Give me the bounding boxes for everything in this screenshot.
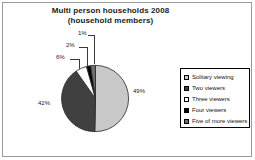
legend-label-three-viewers: Three viewers xyxy=(192,96,230,103)
legend-item-three-viewers: Three viewers xyxy=(184,94,246,105)
leader-line-1pct-horizontal xyxy=(88,35,95,36)
legend-label-four-viewers: Four viewers xyxy=(192,107,226,114)
chart-title-line1: Multi person households 2008 xyxy=(52,6,170,15)
leader-line-6pct-horizontal xyxy=(70,59,80,60)
pie-slice-solitary-viewing xyxy=(95,65,129,131)
legend-label-two-viewers: Two viewers xyxy=(192,85,225,92)
chart-title: Multi person households 2008 (household … xyxy=(18,6,203,26)
pie-chart xyxy=(61,64,130,133)
legend-swatch-icon-solitary-viewing xyxy=(184,75,189,80)
legend-label-solitary-viewing: Solitary viewing xyxy=(192,74,234,81)
legend-item-four-viewers: Four viewers xyxy=(184,105,246,116)
legend-item-two-viewers: Two viewers xyxy=(184,83,246,94)
leader-line-1pct-vertical xyxy=(94,35,95,64)
legend-swatch-icon-four-viewers xyxy=(184,108,189,113)
pie-svg xyxy=(61,64,130,133)
data-label-solitary-viewing: 49% xyxy=(133,88,145,94)
legend-swatch-icon-five-of-more-viewers xyxy=(184,119,189,124)
data-label-four-viewers: 2% xyxy=(66,42,75,48)
chart-legend: Solitary viewing Two viewers Three viewe… xyxy=(180,68,250,128)
leader-line-2pct-horizontal xyxy=(79,47,88,48)
legend-swatch-icon-two-viewers xyxy=(184,86,189,91)
legend-swatch-icon-three-viewers xyxy=(184,97,189,102)
chart-screenshot: Multi person households 2008 (household … xyxy=(0,0,255,160)
legend-label-five-of-more-viewers: Five of more viewers xyxy=(192,118,247,125)
legend-item-solitary-viewing: Solitary viewing xyxy=(184,72,246,83)
data-label-three-viewers: 6% xyxy=(56,54,65,60)
legend-item-five-of-more-viewers: Five of more viewers xyxy=(184,116,246,127)
data-label-five-of-more-viewers: 1% xyxy=(78,30,87,36)
data-label-two-viewers: 42% xyxy=(38,100,50,106)
chart-title-line2: (household members) xyxy=(18,16,203,26)
